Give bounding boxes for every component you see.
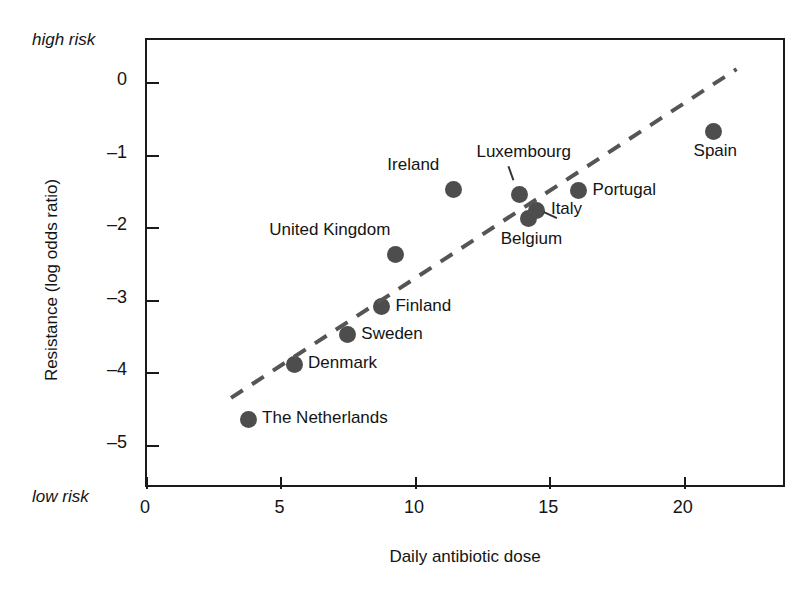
data-point-label: Sweden [361,324,422,344]
x-tick-label: 20 [661,497,705,518]
high-risk-annotation: high risk [32,30,95,50]
y-tick-label: –1 [87,142,127,163]
data-point [705,123,722,140]
y-tick-mark [147,82,159,84]
low-risk-annotation: low risk [32,487,89,507]
data-point [445,181,462,198]
data-point-label: Denmark [308,353,377,373]
x-tick-mark [415,477,417,489]
data-point [511,186,528,203]
y-tick-mark [147,227,159,229]
data-point-label: Portugal [593,180,656,200]
data-point [570,182,587,199]
scatter-plot-figure: high risk low risk Resistance (log odds … [0,0,803,602]
data-point [339,326,356,343]
data-point-label: Finland [395,296,451,316]
data-point [240,411,257,428]
data-point-label: United Kingdom [269,220,390,240]
y-tick-mark [147,372,159,374]
y-tick-label: –3 [87,287,127,308]
y-tick-label: –2 [87,214,127,235]
y-tick-mark [147,300,159,302]
y-tick-label: –5 [87,432,127,453]
data-point-label: Spain [694,141,737,161]
data-point [528,202,545,219]
x-tick-label: 10 [392,497,436,518]
data-point [373,298,390,315]
x-tick-mark [280,477,282,489]
y-tick-mark [147,445,159,447]
x-tick-mark [146,477,148,489]
x-tick-mark [684,477,686,489]
data-point-label: Ireland [387,155,439,175]
y-tick-label: 0 [87,69,127,90]
plot-area: The NetherlandsDenmarkSwedenFinlandUnite… [145,38,785,487]
x-tick-mark [549,477,551,489]
data-point [286,356,303,373]
y-axis-title: Resistance (log odds ratio) [42,120,62,440]
data-point-label: Italy [551,199,582,219]
x-tick-label: 0 [123,497,167,518]
data-point-label: The Netherlands [262,408,388,428]
data-point-label: Luxembourg [476,142,571,162]
x-tick-label: 15 [526,497,570,518]
y-tick-label: –4 [87,359,127,380]
data-point [387,246,404,263]
data-point-label: Belgium [501,229,562,249]
y-tick-mark [147,155,159,157]
x-axis-title: Daily antibiotic dose [145,547,785,567]
x-tick-label: 5 [257,497,301,518]
